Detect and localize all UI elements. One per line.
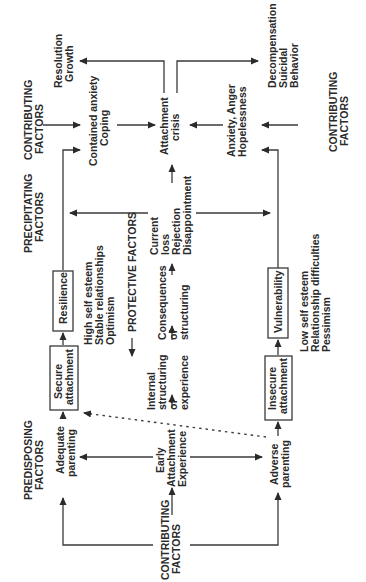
- svg-text:structuring: structuring: [178, 285, 190, 340]
- predisposing-factors-header: PREDISPOSING FACTORS: [22, 420, 45, 500]
- svg-text:Vulnerability: Vulnerability: [272, 270, 284, 333]
- svg-text:parenting: parenting: [65, 429, 77, 477]
- protective-factors-label: PROTECTIVE FACTORS: [126, 212, 138, 332]
- resilience-label: Resilience: [57, 272, 69, 324]
- svg-text:Resilience: Resilience: [57, 272, 69, 324]
- svg-text:Coping: Coping: [98, 110, 110, 146]
- svg-text:Hopelessness: Hopelessness: [236, 86, 248, 157]
- anxiety-anger-node: Anxiety, Anger Hopelessness: [225, 84, 248, 157]
- vulnerability-label: Vulnerability: [272, 270, 284, 333]
- svg-text:FACTORS: FACTORS: [338, 96, 350, 146]
- arrow-contributing-to-adverse: [190, 493, 278, 545]
- contributing-factors-bottom: CONTRIBUTING FACTORS: [159, 500, 182, 581]
- svg-text:Behavior: Behavior: [288, 43, 300, 88]
- svg-text:FACTORS: FACTORS: [33, 192, 45, 242]
- contributing-factors-top-right: CONTRIBUTING FACTORS: [327, 72, 350, 153]
- precipitating-factors-header: PRECIPITATING FACTORS: [22, 173, 45, 253]
- attachment-crisis-node: Attachment crisis: [158, 97, 181, 155]
- internal-structuring-node: Internal structuring of experience: [145, 355, 190, 410]
- svg-text:Consequences: Consequences: [156, 265, 168, 340]
- svg-text:FACTORS: FACTORS: [33, 104, 45, 154]
- arrow-vulnerability-to-anxiety: [262, 150, 278, 272]
- consequences-node: Consequences of structuring: [156, 265, 190, 340]
- svg-text:attachment: attachment: [63, 348, 75, 405]
- svg-text:Disappointment: Disappointment: [181, 175, 193, 255]
- adequate-parenting-node: Adequate parenting: [54, 426, 77, 477]
- svg-text:Pessimism: Pessimism: [320, 297, 332, 352]
- current-loss-node: Current loss Rejection Disappointment: [148, 175, 193, 255]
- contributing-factors-top-left: CONTRIBUTING FACTORS: [22, 80, 45, 161]
- adverse-parenting-node: Adverse parenting: [268, 440, 291, 488]
- svg-text:PROTECTIVE FACTORS: PROTECTIVE FACTORS: [126, 212, 138, 332]
- svg-text:Experience: Experience: [176, 431, 188, 487]
- svg-text:crisis: crisis: [169, 113, 181, 141]
- resolution-growth-node: Resolution Growth: [52, 34, 75, 88]
- svg-text:FACTORS: FACTORS: [170, 524, 182, 574]
- svg-text:FACTORS: FACTORS: [33, 440, 45, 490]
- early-attachment-node: Early Attachment Experience: [154, 429, 188, 487]
- vulnerability-traits: Low self esteem Relationship difficultie…: [298, 233, 332, 352]
- arrow-resilience-to-contained: [63, 150, 80, 270]
- attachment-crisis-diagram: CONTRIBUTING FACTORS PREDISPOSING FACTOR…: [0, 0, 366, 582]
- resilience-traits: High self esteem Stable relationships Op…: [82, 245, 116, 345]
- svg-text:attachment: attachment: [277, 357, 289, 414]
- decompensation-node: Decompensation Suicidal Behavior: [266, 3, 300, 88]
- svg-text:experience: experience: [178, 355, 190, 410]
- svg-text:Growth: Growth: [63, 45, 75, 82]
- contained-anxiety-node: Contained anxiety Coping: [87, 75, 110, 166]
- svg-text:parenting: parenting: [279, 440, 291, 488]
- arrow-contributing-to-adequate: [63, 498, 153, 545]
- svg-text:Optimism: Optimism: [104, 297, 116, 345]
